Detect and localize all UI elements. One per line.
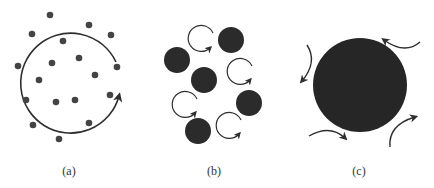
panel-a — [15, 12, 121, 143]
panel-b — [164, 25, 262, 144]
small-particles — [15, 12, 121, 143]
circular-flow-arrow — [21, 33, 119, 133]
diagram-canvas — [0, 0, 434, 188]
panel-label-a: (a) — [49, 164, 89, 179]
panel-label-c: (c) — [339, 164, 379, 179]
panel-label-b: (b) — [194, 164, 234, 179]
large-particle — [313, 38, 407, 132]
panel-c — [302, 38, 420, 147]
medium-particles — [164, 27, 262, 144]
